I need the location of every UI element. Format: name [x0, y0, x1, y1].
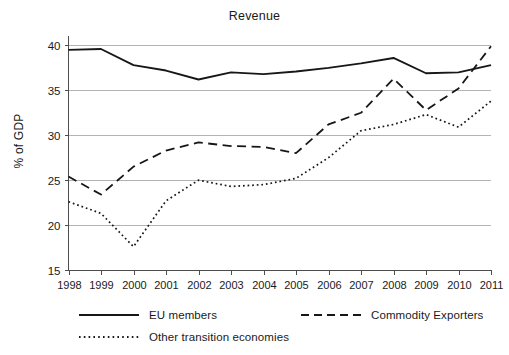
y-axis-ticks: 152025303540 [48, 40, 69, 277]
revenue-line-chart-figure: Revenue % of GDP 152025303540 1998199920… [0, 0, 509, 355]
legend-item-other-transition-economies[interactable]: Other transition economies [78, 326, 289, 348]
gridlines [69, 46, 492, 271]
x-tick-label: 2005 [284, 279, 308, 291]
legend-label-eu-members: EU members [149, 309, 217, 321]
y-tick-label: 15 [48, 265, 61, 277]
legend-swatch-solid [78, 308, 140, 322]
x-tick-label: 2009 [414, 279, 438, 291]
x-tick-label: 2000 [122, 279, 146, 291]
x-tick-label: 2008 [382, 279, 406, 291]
x-tick-label: 2001 [154, 279, 178, 291]
series-line-commodity-exporters [69, 46, 492, 194]
y-tick-label: 30 [48, 130, 61, 142]
legend-item-commodity-exporters[interactable]: Commodity Exporters [300, 304, 483, 326]
y-tick-label: 20 [48, 220, 61, 232]
x-tick-label: 2004 [252, 279, 276, 291]
chart-legend: EU members Commodity Exporters Other tra… [0, 300, 509, 355]
y-tick-label: 35 [48, 85, 61, 97]
x-tick-label: 1999 [89, 279, 113, 291]
x-tick-label: 2003 [219, 279, 243, 291]
x-tick-label: 2006 [317, 279, 341, 291]
x-tick-label: 2010 [447, 279, 471, 291]
legend-label-commodity-exporters: Commodity Exporters [371, 309, 483, 321]
x-tick-label: 2007 [349, 279, 373, 291]
legend-label-other-transition-economies: Other transition economies [149, 331, 289, 343]
axis-spines [69, 36, 492, 271]
x-axis-ticks: 1998199920002001200220032004200520062007… [57, 270, 503, 291]
series-line-eu-members [69, 49, 492, 80]
x-tick-label: 1998 [57, 279, 81, 291]
x-tick-label: 2011 [480, 279, 504, 291]
legend-swatch-dotted [78, 330, 140, 344]
legend-item-eu-members[interactable]: EU members [78, 304, 217, 326]
y-tick-label: 25 [48, 175, 61, 187]
series-line-other-transition-economies [69, 101, 492, 247]
x-tick-label: 2002 [187, 279, 211, 291]
plot-area: 152025303540 199819992000200120022003200… [0, 0, 509, 300]
y-tick-label: 40 [48, 40, 61, 52]
data-series [69, 46, 492, 246]
legend-swatch-dashed [300, 308, 362, 322]
